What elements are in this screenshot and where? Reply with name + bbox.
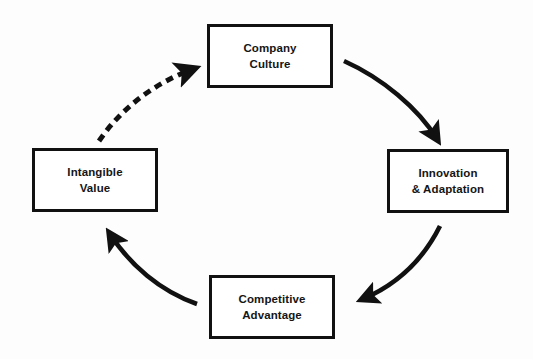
node-innovation-adaptation[interactable]: Innovation & Adaptation	[387, 149, 509, 213]
node-company-culture-label: Company Culture	[243, 40, 296, 73]
connector-innovation-to-competitive	[363, 226, 440, 299]
node-intangible-value-label: Intangible Value	[67, 164, 122, 197]
node-innovation-adaptation-label: Innovation & Adaptation	[412, 165, 484, 198]
diagram-canvas: Company Culture Innovation & Adaptation …	[0, 0, 533, 359]
node-intangible-value[interactable]: Intangible Value	[32, 148, 158, 212]
connector-intangible-to-culture	[99, 69, 193, 141]
node-competitive-advantage-label: Competitive Advantage	[239, 291, 306, 324]
node-competitive-advantage[interactable]: Competitive Advantage	[209, 275, 335, 339]
connector-culture-to-innovation	[344, 61, 437, 139]
node-company-culture[interactable]: Company Culture	[207, 24, 333, 88]
connector-competitive-to-intangible	[110, 234, 197, 304]
